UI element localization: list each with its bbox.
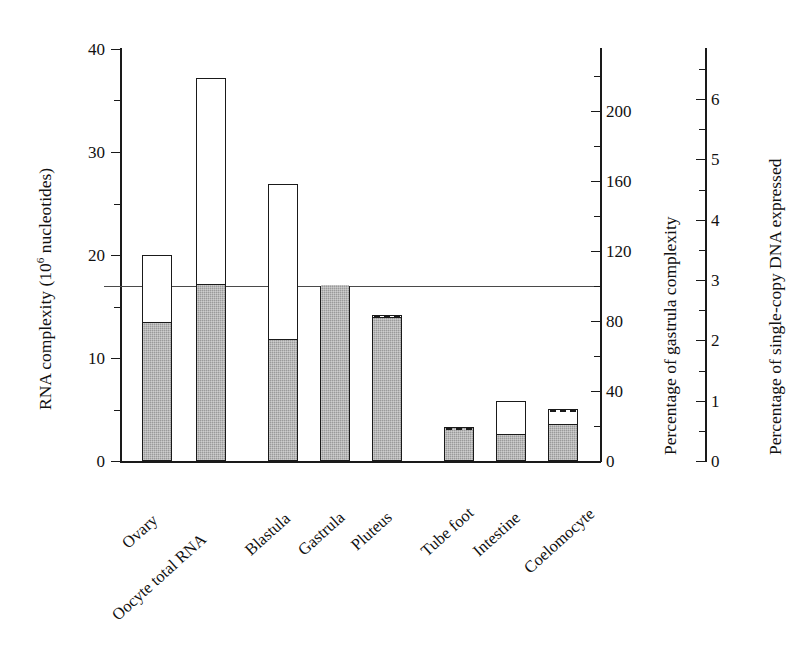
right-tick-label-2: 2 <box>711 332 720 349</box>
left-tick-label-20: 20 <box>60 247 105 264</box>
left-axis-title-main: RNA complexity (10 <box>35 263 55 410</box>
left-tick-minor-35 <box>114 100 120 101</box>
right-tick-label-0: 0 <box>711 453 720 470</box>
x-axis-baseline <box>120 461 601 463</box>
figure-canvas: RNA complexity (106 nucleotides) 0 10 20… <box>0 0 788 663</box>
left-tick-minor-15 <box>114 307 120 308</box>
right-tick-label-1: 1 <box>711 393 720 410</box>
bar-intestine[interactable] <box>496 401 526 461</box>
middle-tick-label-0: 0 <box>606 453 615 470</box>
left-tick-major-20 <box>111 255 120 256</box>
left-axis-title: RNA complexity (106 nucleotides) <box>34 168 56 410</box>
middle-tick-major-120 <box>591 251 600 252</box>
middle-tick-minor-140 <box>594 216 600 217</box>
bar-gastrula-shaded-segment <box>321 285 349 460</box>
middle-axis-line <box>600 48 602 462</box>
bar-intestine-shaded-segment <box>497 434 525 460</box>
right-tick-major-4 <box>696 220 705 221</box>
middle-tick-major-40 <box>591 391 600 392</box>
right-tick-label-6: 6 <box>711 91 720 108</box>
middle-tick-major-0 <box>591 461 600 462</box>
bar-oocyte-total-rna[interactable] <box>196 78 226 461</box>
left-axis-title-superscript: 6 <box>34 258 46 264</box>
middle-tick-major-200 <box>591 111 600 112</box>
right-tick-label-4: 4 <box>711 212 720 229</box>
category-label-coelomocyte: Coelomocyte <box>520 504 599 578</box>
middle-axis-title: Percentage of gastrula complexity <box>660 216 681 455</box>
left-tick-minor-5 <box>114 410 120 411</box>
left-tick-label-10: 10 <box>60 350 105 367</box>
middle-tick-minor-180 <box>594 146 600 147</box>
right-axis-line <box>705 48 707 462</box>
bar-blastula[interactable] <box>268 184 298 461</box>
bar-blastula-shaded-segment <box>269 339 297 460</box>
bar-pluteus[interactable] <box>372 315 402 461</box>
bar-tube-foot[interactable] <box>444 427 474 461</box>
category-label-pluteus: Pluteus <box>347 507 396 554</box>
left-tick-major-40 <box>111 49 120 50</box>
category-label-intestine: Intestine <box>469 508 525 561</box>
bar-coelomocyte-shaded-segment <box>549 424 577 460</box>
left-axis-line <box>120 48 122 462</box>
right-tick-label-5: 5 <box>711 151 720 168</box>
middle-tick-minor-220 <box>594 76 600 77</box>
right-tick-minor-2-5 <box>699 310 705 311</box>
bar-pluteus-shaded-segment <box>373 317 401 460</box>
bar-ovary-shaded-segment <box>143 322 171 460</box>
middle-tick-label-40: 40 <box>606 383 623 400</box>
middle-tick-minor-100 <box>594 286 600 287</box>
bar-pluteus-dashed-top <box>374 316 400 318</box>
left-tick-major-30 <box>111 152 120 153</box>
right-tick-minor-5-5 <box>699 129 705 130</box>
middle-tick-label-200: 200 <box>606 103 632 120</box>
bar-ovary[interactable] <box>142 255 172 461</box>
right-tick-label-3: 3 <box>711 272 720 289</box>
middle-tick-label-160: 160 <box>606 173 632 190</box>
right-tick-major-2 <box>696 340 705 341</box>
right-tick-minor-1-5 <box>699 371 705 372</box>
middle-tick-label-120: 120 <box>606 243 632 260</box>
right-axis-title: Percentage of single-copy DNA expressed <box>765 159 786 455</box>
middle-tick-minor-20 <box>594 426 600 427</box>
right-tick-minor-3-5 <box>699 250 705 251</box>
left-tick-label-30: 30 <box>60 144 105 161</box>
middle-tick-major-160 <box>591 181 600 182</box>
bar-oocyte-total-rna-shaded-segment <box>197 284 225 460</box>
right-tick-major-0 <box>696 461 705 462</box>
left-tick-major-10 <box>111 358 120 359</box>
left-tick-major-0 <box>111 461 120 462</box>
right-tick-minor-6-5 <box>699 69 705 70</box>
bar-gastrula[interactable] <box>320 286 350 461</box>
middle-tick-minor-60 <box>594 356 600 357</box>
category-label-ovary: Ovary <box>118 510 162 552</box>
right-tick-minor-4-5 <box>699 190 705 191</box>
left-tick-minor-25 <box>114 204 120 205</box>
category-label-tube-foot: Tube foot <box>417 503 478 561</box>
right-tick-major-6 <box>696 99 705 100</box>
left-axis-title-tail: nucleotides) <box>35 168 55 258</box>
bar-coelomocyte[interactable] <box>548 409 578 461</box>
bar-tube-foot-dashed-top <box>446 428 472 430</box>
category-label-gastrula: Gastrula <box>294 508 349 560</box>
reference-line-gastrula-complexity <box>104 286 602 287</box>
right-tick-major-5 <box>696 159 705 160</box>
right-tick-major-1 <box>696 401 705 402</box>
bar-coelomocyte-dashed-top <box>550 410 576 412</box>
middle-tick-label-80: 80 <box>606 313 623 330</box>
bar-tube-foot-shaded-segment <box>445 427 473 460</box>
category-label-blastula: Blastula <box>241 509 295 560</box>
right-tick-major-3 <box>696 280 705 281</box>
left-tick-label-0: 0 <box>60 453 105 470</box>
right-tick-minor-0-5 <box>699 431 705 432</box>
middle-tick-major-80 <box>591 321 600 322</box>
left-tick-label-40: 40 <box>60 41 105 58</box>
